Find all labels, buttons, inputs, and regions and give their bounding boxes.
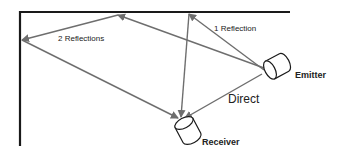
emitter-icon	[261, 51, 293, 81]
two-reflections-label: 2 Reflections	[58, 34, 104, 43]
receiver-label: Receiver	[202, 137, 240, 147]
one-reflection-label: 1 Reflection	[214, 24, 256, 33]
emitter-label: Emitter	[295, 70, 326, 80]
direct-label: Direct	[228, 92, 259, 106]
reflection-diagram	[0, 0, 337, 166]
receiver-icon	[173, 114, 203, 147]
